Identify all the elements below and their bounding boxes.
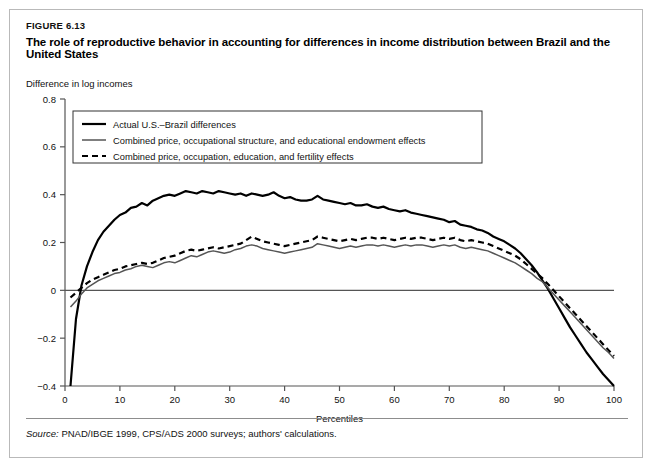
legend-label-2: Combined price, occupation, education, a… bbox=[113, 152, 354, 162]
x-axis-tick-label: 20 bbox=[170, 394, 181, 405]
x-axis-tick-label: 70 bbox=[444, 394, 455, 405]
x-axis-tick-label: 100 bbox=[606, 394, 622, 405]
y-axis-tick-label: 0.2 bbox=[43, 237, 56, 248]
x-axis-tick-label: 90 bbox=[554, 394, 565, 405]
x-axis-tick-label: 10 bbox=[115, 394, 126, 405]
x-axis-tick-label: 80 bbox=[499, 394, 510, 405]
source-text: PNAD/IBGE 1999, CPS/ADS 2000 surveys; au… bbox=[61, 428, 336, 439]
y-axis-tick-label: −0.2 bbox=[37, 333, 56, 344]
chart-area: −0.4−0.200.20.40.60.80102030405060708090… bbox=[10, 10, 644, 459]
legend-label-1: Combined price, occupational structure, … bbox=[113, 136, 426, 146]
legend-label-0: Actual U.S.–Brazil differences bbox=[113, 120, 236, 130]
figure-container: FIGURE 6.13 The role of reproductive beh… bbox=[9, 9, 643, 458]
y-axis-tick-label: 0 bbox=[51, 285, 56, 296]
y-axis-tick-label: 0.4 bbox=[43, 189, 56, 200]
y-axis-tick-label: −0.4 bbox=[37, 381, 56, 392]
x-axis-tick-label: 40 bbox=[279, 394, 290, 405]
source-divider bbox=[26, 418, 628, 419]
line-chart-svg: −0.4−0.200.20.40.60.80102030405060708090… bbox=[10, 10, 644, 459]
y-axis-tick-label: 0.8 bbox=[43, 94, 56, 105]
y-axis-tick-label: 0.6 bbox=[43, 141, 56, 152]
series-line-2 bbox=[70, 237, 614, 357]
series-line-1 bbox=[70, 244, 614, 359]
series-line-0 bbox=[70, 191, 614, 386]
source-label: Source: bbox=[26, 428, 59, 439]
x-axis-tick-label: 30 bbox=[224, 394, 235, 405]
x-axis-tick-label: 50 bbox=[334, 394, 345, 405]
x-axis-tick-label: 0 bbox=[62, 394, 67, 405]
x-axis-tick-label: 60 bbox=[389, 394, 400, 405]
source-note: Source: PNAD/IBGE 1999, CPS/ADS 2000 sur… bbox=[26, 428, 337, 439]
